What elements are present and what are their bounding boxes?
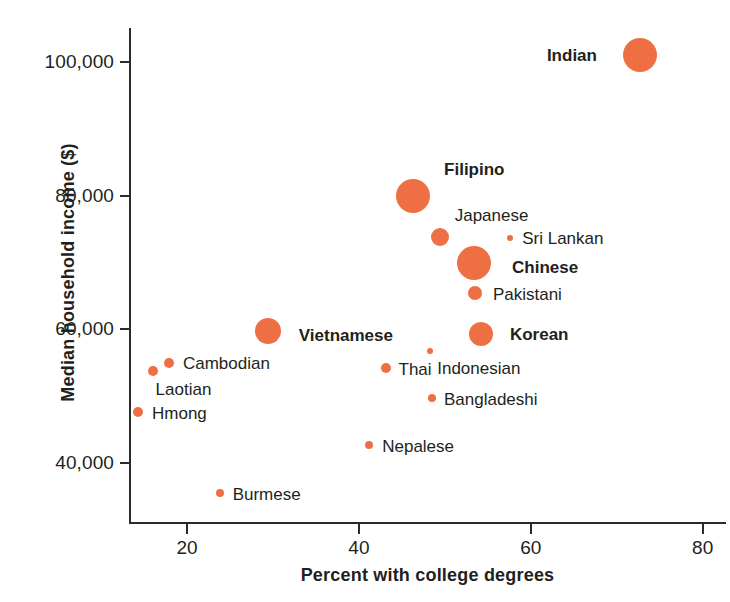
bubble-cambodian[interactable] bbox=[164, 358, 174, 368]
bubble-label-nepalese: Nepalese bbox=[382, 437, 454, 454]
bubble-vietnamese[interactable] bbox=[255, 318, 281, 344]
bubble-label-bangladeshi: Bangladeshi bbox=[444, 391, 538, 408]
bubble-burmese[interactable] bbox=[216, 489, 224, 497]
bubble-label-thai: Thai bbox=[399, 361, 432, 378]
bubble-label-sri-lankan: Sri Lankan bbox=[522, 230, 603, 247]
bubble-japanese[interactable] bbox=[431, 228, 449, 246]
bubble-laotian[interactable] bbox=[148, 366, 158, 376]
bubble-chinese[interactable] bbox=[457, 246, 491, 280]
bubble-thai[interactable] bbox=[381, 363, 391, 373]
bubble-label-indian: Indian bbox=[547, 47, 597, 64]
bubble-korean[interactable] bbox=[469, 322, 493, 346]
bubble-label-pakistani: Pakistani bbox=[493, 286, 562, 303]
bubble-label-korean: Korean bbox=[510, 325, 569, 342]
bubble-chart: 40,00060,00080,000100,000 20406080 Media… bbox=[0, 0, 730, 602]
bubble-label-laotian: Laotian bbox=[156, 380, 212, 397]
bubble-label-vietnamese: Vietnamese bbox=[299, 326, 393, 343]
bubble-pakistani[interactable] bbox=[468, 286, 482, 300]
bubble-nepalese[interactable] bbox=[365, 441, 373, 449]
bubble-hmong[interactable] bbox=[133, 407, 143, 417]
bubble-filipino[interactable] bbox=[396, 179, 430, 213]
bubble-label-cambodian: Cambodian bbox=[183, 354, 270, 371]
bubble-indonesian[interactable] bbox=[427, 348, 433, 354]
bubble-label-hmong: Hmong bbox=[152, 404, 207, 421]
bubble-bangladeshi[interactable] bbox=[428, 394, 436, 402]
bubble-indian[interactable] bbox=[623, 38, 657, 72]
bubble-label-burmese: Burmese bbox=[233, 486, 301, 503]
bubble-label-chinese: Chinese bbox=[512, 259, 578, 276]
bubble-sri-lankan[interactable] bbox=[507, 235, 513, 241]
plot-area: IndianFilipinoJapaneseSri LankanChineseP… bbox=[0, 0, 730, 602]
bubble-label-filipino: Filipino bbox=[444, 161, 504, 178]
bubble-label-indonesian: Indonesian bbox=[437, 359, 520, 376]
bubble-label-japanese: Japanese bbox=[455, 207, 529, 224]
